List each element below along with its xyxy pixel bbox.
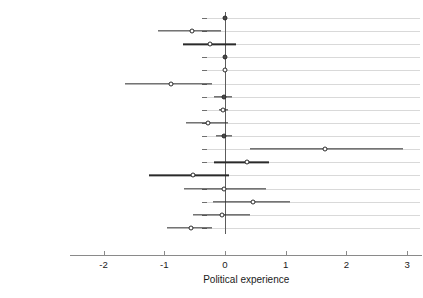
- confidence-interval-bar: [149, 175, 229, 176]
- y-axis-tick: [202, 149, 207, 150]
- y-axis-tick: [202, 70, 207, 71]
- x-axis-tick: [407, 251, 408, 255]
- y-axis-tick: [202, 162, 207, 163]
- x-axis-tick: [164, 251, 165, 255]
- gridline: [207, 136, 420, 137]
- y-axis-tick: [202, 57, 207, 58]
- coefficient-plot: Leader tenureLeader militaryLeader comba…: [0, 0, 423, 298]
- estimate-marker: [223, 68, 228, 73]
- confidence-interval-bar: [214, 162, 269, 163]
- gridline: [207, 84, 420, 85]
- gridline: [207, 123, 420, 124]
- y-axis-tick: [202, 110, 207, 111]
- gridline: [207, 31, 420, 32]
- gridline: [207, 175, 420, 176]
- gridline: [207, 97, 420, 98]
- x-axis-tick: [104, 251, 105, 255]
- estimate-marker: [245, 160, 250, 165]
- estimate-marker: [189, 225, 194, 230]
- gridline: [207, 228, 420, 229]
- estimate-marker: [221, 134, 226, 139]
- estimate-marker: [222, 186, 227, 191]
- estimate-marker: [168, 81, 173, 86]
- x-axis-tick: [346, 251, 347, 255]
- y-axis-tick: [202, 97, 207, 98]
- estimate-marker: [219, 212, 224, 217]
- y-axis-tick: [202, 18, 207, 19]
- estimate-marker: [223, 55, 228, 60]
- x-axis-tick: [286, 251, 287, 255]
- gridline: [207, 70, 420, 71]
- gridline: [207, 110, 420, 111]
- estimate-marker: [206, 120, 211, 125]
- gridline: [207, 44, 420, 45]
- estimate-marker: [207, 42, 212, 47]
- plot-area: [0, 0, 423, 298]
- x-axis-tick-label: 0: [222, 259, 227, 270]
- y-axis-tick: [202, 202, 207, 203]
- x-axis-title: Political experience: [203, 274, 289, 286]
- x-axis-tick: [225, 251, 226, 255]
- x-axis-line: [70, 255, 422, 256]
- estimate-marker: [190, 173, 195, 178]
- x-axis-tick-label: 2: [344, 259, 349, 270]
- estimate-marker: [322, 147, 327, 152]
- x-axis-tick-label: 3: [404, 259, 409, 270]
- estimate-marker: [223, 16, 228, 21]
- gridline: [207, 57, 420, 58]
- gridline: [207, 18, 420, 19]
- x-axis-tick-label: 1: [283, 259, 288, 270]
- estimate-marker: [221, 107, 226, 112]
- y-axis-tick: [202, 136, 207, 137]
- x-axis-tick-label: -1: [160, 259, 169, 270]
- estimate-marker: [221, 94, 226, 99]
- estimate-marker: [250, 199, 255, 204]
- x-axis-tick-label: -2: [99, 259, 108, 270]
- estimate-marker: [189, 29, 194, 34]
